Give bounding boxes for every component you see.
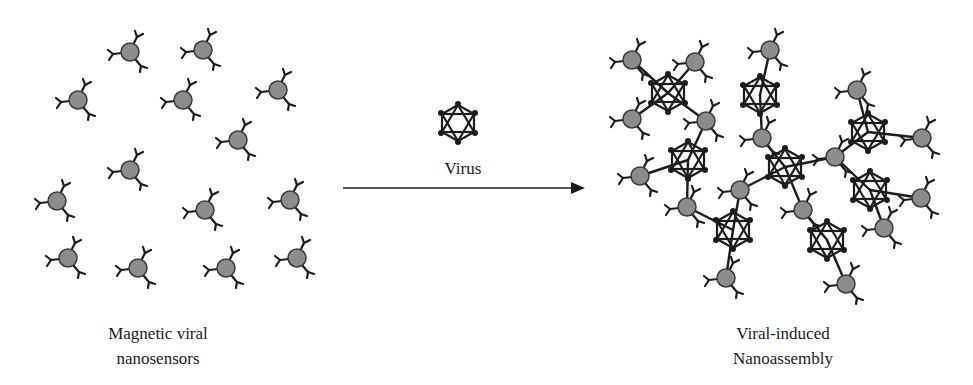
right-caption-line1: Viral-induced [703, 321, 863, 346]
nanosensor-icon [781, 189, 820, 230]
nanosensor-icon [813, 136, 852, 177]
nanosensor-icon [610, 98, 649, 139]
nanosensor-icon [183, 189, 222, 230]
nanosensor-icon [862, 207, 901, 248]
nanosensor-icon [824, 263, 863, 304]
nanosensor-icon [275, 237, 314, 278]
nanosensor-icon [835, 69, 874, 110]
nanosensor-icon [181, 29, 220, 70]
nanosensor-icon [108, 149, 147, 190]
nanosensor-icon [900, 117, 939, 158]
virus-label: Virus [423, 159, 503, 179]
virus-icon [438, 101, 478, 145]
right-caption-line2: Nanoassembly [703, 346, 863, 371]
nanosensor-icon [673, 41, 712, 82]
nanosensor-icon [46, 237, 85, 278]
left-caption-line1: Magnetic viral [78, 321, 238, 346]
nanosensor-icon [704, 257, 743, 298]
nanosensor-icon [665, 186, 704, 227]
reaction-arrow [343, 182, 585, 194]
nanosensor-icon [684, 100, 723, 141]
assembly-virus-cluster [648, 71, 890, 262]
nanosensor-icon [161, 79, 200, 120]
nanosensor-icon [610, 39, 649, 80]
nanosensor-icon [216, 119, 255, 160]
right-panel-caption: Viral-induced Nanoassembly [703, 321, 863, 371]
nanosensor-icon [618, 155, 657, 196]
nanosensor-cluster [35, 29, 314, 288]
nanosensor-icon [35, 180, 74, 221]
left-panel-caption: Magnetic viral nanosensors [78, 321, 238, 371]
nanosensor-icon [56, 79, 95, 120]
nanosensor-icon [108, 31, 147, 72]
virus-icon [438, 101, 478, 145]
nanosensor-icon [268, 179, 307, 220]
nanosensor-icon [740, 117, 779, 158]
nanosensor-icon [204, 247, 243, 288]
nanosensor-icon [256, 69, 295, 110]
left-caption-line2: nanosensors [78, 346, 238, 371]
nanosensor-icon [116, 247, 155, 288]
nanosensor-icon [899, 177, 938, 218]
